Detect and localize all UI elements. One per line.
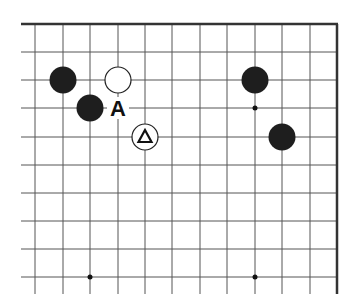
star-point-icon [88,275,93,280]
white-stone [105,67,131,93]
black-stone [77,95,104,122]
go-board-diagram: A [0,0,359,305]
star-point-icon [253,106,258,111]
black-stone [269,124,296,151]
star-point-icon [253,275,258,280]
black-stone [242,67,269,94]
black-stone [50,67,77,94]
labels: A [107,96,129,121]
point-label-a: A [110,96,126,121]
grid-lines [21,24,338,294]
